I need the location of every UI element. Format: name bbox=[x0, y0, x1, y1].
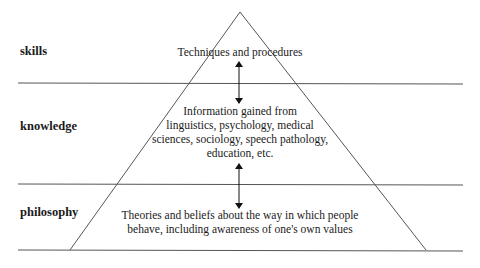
knowledge-description: Information gained from linguistics, psy… bbox=[120, 104, 360, 160]
description-line: linguistics, psychology, medical bbox=[120, 118, 360, 132]
description-line: behave, including awareness of one's own… bbox=[100, 222, 380, 236]
divider-line-knowledge-philosophy bbox=[18, 184, 463, 185]
description-line: Techniques and procedures bbox=[140, 45, 340, 59]
level-label-philosophy: philosophy bbox=[20, 205, 78, 220]
divider-line-skills-knowledge bbox=[18, 83, 463, 84]
philosophy-description: Theories and beliefs about the way in wh… bbox=[100, 208, 380, 236]
level-label-skills: skills bbox=[20, 44, 47, 59]
level-label-knowledge: knowledge bbox=[20, 119, 77, 134]
description-line: Information gained from bbox=[120, 104, 360, 118]
description-line: Theories and beliefs about the way in wh… bbox=[100, 208, 380, 222]
base-line bbox=[18, 250, 463, 251]
description-line: education, etc. bbox=[120, 146, 360, 160]
description-line: sciences, sociology, speech pathology, bbox=[120, 132, 360, 146]
skills-description: Techniques and procedures bbox=[140, 45, 340, 59]
